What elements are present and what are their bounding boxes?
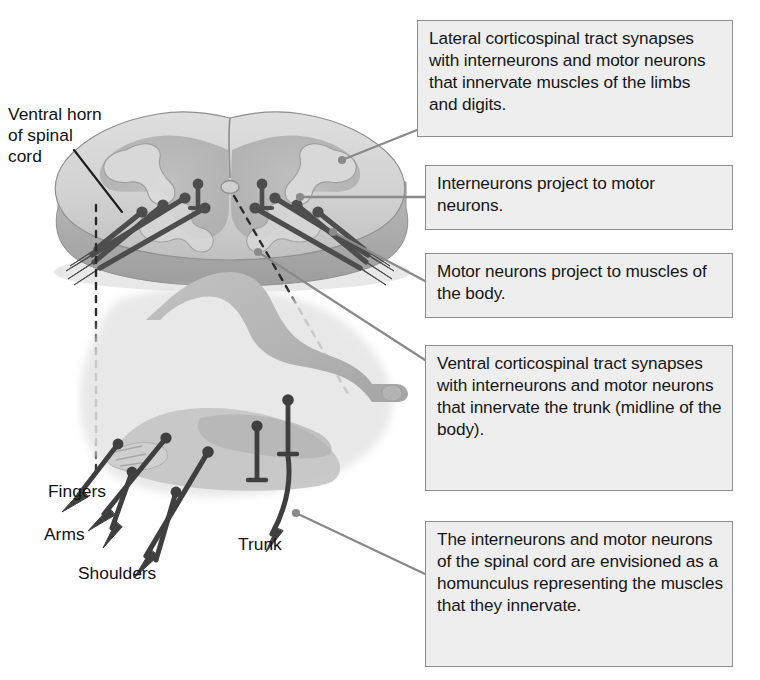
label-arms: Arms <box>44 524 85 545</box>
callout-lateral-corticospinal-tract: Lateral corticospinal tract synapses wit… <box>417 20 733 137</box>
callout-homunculus-concept: The interneurons and motor neurons of th… <box>425 521 733 667</box>
leader-line-5 <box>296 513 425 574</box>
central-canal <box>221 181 239 194</box>
label-fingers: Fingers <box>48 481 106 502</box>
spinal-cord-cross-section <box>54 112 410 292</box>
homunculus-figure <box>80 272 408 496</box>
callout-ventral-corticospinal-tract: Ventral corticospinal tract synapses wit… <box>425 345 733 491</box>
label-trunk: Trunk <box>238 534 282 555</box>
figure-root: Lateral corticospinal tract synapses wit… <box>0 0 760 680</box>
callout-interneurons-project: Interneurons project to motor neurons. <box>425 165 733 230</box>
label-shoulders: Shoulders <box>78 563 156 584</box>
callout-motor-neurons-project: Motor neurons project to muscles of the … <box>425 253 733 318</box>
label-ventral-horn-of-spinal-cord: Ventral horn of spinal cord <box>8 104 102 167</box>
median-fissure <box>229 118 230 178</box>
